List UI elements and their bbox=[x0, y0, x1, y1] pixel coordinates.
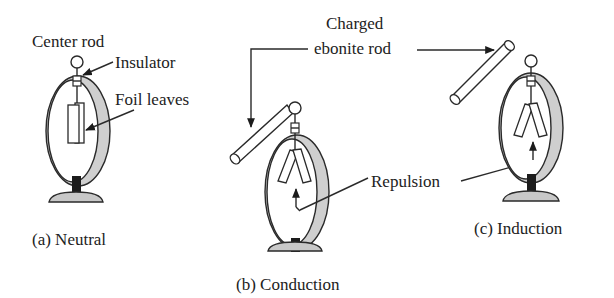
foil-leaf-front-a bbox=[68, 105, 79, 143]
label-charged-line1: Charged bbox=[326, 14, 384, 33]
electroscope-c bbox=[448, 39, 563, 201]
label-repulsion-group: Repulsion bbox=[300, 161, 533, 210]
panel-c-induction: (c) Induction bbox=[448, 39, 563, 238]
electroscope-figure: Center rod Insulator Foil leaves (a) Neu… bbox=[0, 0, 614, 298]
stand-base-a bbox=[49, 192, 103, 202]
panel-a-neutral: Center rod Insulator Foil leaves (a) Neu… bbox=[32, 32, 189, 249]
electroscope-b bbox=[228, 102, 329, 252]
caption-a: (a) Neutral bbox=[32, 230, 106, 249]
label-repulsion: Repulsion bbox=[371, 172, 440, 191]
stand-stem-c bbox=[527, 174, 536, 193]
electroscope-a bbox=[46, 56, 110, 202]
ball-b bbox=[289, 102, 301, 114]
caption-c: (c) Induction bbox=[474, 219, 563, 238]
ball-a bbox=[71, 56, 83, 68]
caption-b: (b) Conduction bbox=[236, 275, 340, 294]
label-insulator: Insulator bbox=[115, 53, 176, 72]
leader-insulator bbox=[83, 62, 113, 75]
stand-base-b bbox=[268, 242, 322, 251]
stand-stem-a bbox=[72, 176, 81, 194]
panel-b-conduction bbox=[228, 102, 329, 252]
label-foil-leaves: Foil leaves bbox=[115, 90, 189, 109]
label-center-rod: Center rod bbox=[32, 32, 105, 51]
stand-base-c bbox=[503, 191, 559, 201]
label-charged-line2: ebonite rod bbox=[314, 39, 391, 58]
ball-c bbox=[525, 55, 537, 67]
